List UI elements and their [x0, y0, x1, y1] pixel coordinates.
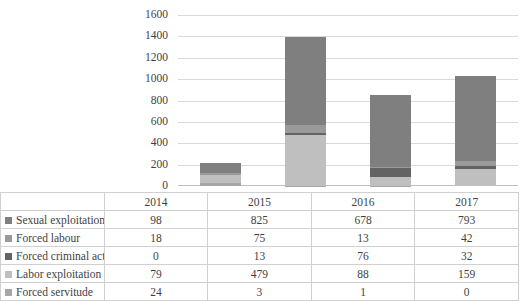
bar-segment	[285, 125, 326, 133]
table-corner-cell	[1, 193, 105, 211]
chart-with-data-table: 16001400120010008006004002000 2014201520…	[0, 0, 521, 301]
plot-area	[178, 15, 518, 186]
table-column-header-2016: 2016	[311, 193, 415, 211]
table-row-header: Forced labour	[1, 229, 105, 247]
table-cell: 42	[415, 229, 519, 247]
stacked-bars	[178, 15, 518, 186]
bar-segment	[370, 168, 411, 176]
table-cell: 24	[104, 283, 208, 301]
y-axis-tick-600: 600	[151, 116, 168, 128]
bar-group-2015	[285, 37, 326, 186]
legend-swatch-forced-criminal-activity	[5, 253, 12, 260]
y-axis-tick-labels: 16001400120010008006004002000	[0, 0, 176, 192]
bar-segment	[455, 76, 496, 161]
table-header-row: 2014201520162017	[1, 193, 519, 211]
table-row-header: Forced criminal activity of minors	[1, 247, 105, 265]
table-row-header: Labor exploitation	[1, 265, 105, 283]
y-axis-tick-1400: 1400	[145, 30, 168, 42]
series-label: Forced servitude	[16, 286, 93, 298]
table-cell: 0	[415, 283, 519, 301]
table-cell: 825	[208, 211, 312, 229]
table-cell: 1	[311, 283, 415, 301]
table-row: Forced labour18751342	[1, 229, 519, 247]
table-cell: 18	[104, 229, 208, 247]
legend-swatch-sexual-exploitation	[5, 217, 12, 224]
data-table-region: 2014201520162017Sexual exploitation98825…	[0, 192, 521, 301]
table-row-header: Forced servitude	[1, 283, 105, 301]
bar-segment	[200, 175, 241, 183]
y-axis-tick-1000: 1000	[145, 73, 168, 85]
bar-group-2014	[200, 163, 241, 186]
series-label: Forced criminal activity of minors	[16, 250, 104, 262]
bar-group-2017	[455, 76, 496, 186]
data-table: 2014201520162017Sexual exploitation98825…	[0, 192, 519, 301]
series-label: Labor exploitation	[16, 268, 101, 280]
bar-segment	[285, 135, 326, 186]
bar-group-2016	[370, 95, 411, 186]
chart-plot-region: 16001400120010008006004002000	[0, 0, 521, 192]
table-row: Forced criminal activity of minors013763…	[1, 247, 519, 265]
table-cell: 13	[311, 229, 415, 247]
legend-swatch-labor-exploitation	[5, 271, 12, 278]
bar-segment	[200, 163, 241, 173]
table-cell: 0	[104, 247, 208, 265]
table-cell: 32	[415, 247, 519, 265]
bar-segment	[200, 183, 241, 186]
legend-swatch-forced-labour	[5, 235, 12, 242]
table-row-header: Sexual exploitation	[1, 211, 105, 229]
table-cell: 79	[104, 265, 208, 283]
bar-segment	[370, 177, 411, 186]
table-cell: 159	[415, 265, 519, 283]
table-row: Forced servitude24310	[1, 283, 519, 301]
table-column-header-2014: 2014	[104, 193, 208, 211]
table-column-header-2015: 2015	[208, 193, 312, 211]
table-row: Sexual exploitation98825678793	[1, 211, 519, 229]
table-row: Labor exploitation7947988159	[1, 265, 519, 283]
table-cell: 678	[311, 211, 415, 229]
table-cell: 479	[208, 265, 312, 283]
y-axis-tick-1600: 1600	[145, 9, 168, 21]
series-label: Forced labour	[16, 232, 80, 244]
table-cell: 13	[208, 247, 312, 265]
table-cell: 75	[208, 229, 312, 247]
table-cell: 76	[311, 247, 415, 265]
bar-segment	[285, 37, 326, 125]
y-axis-tick-400: 400	[151, 137, 168, 149]
legend-swatch-forced-servitude	[5, 289, 12, 296]
table-column-header-2017: 2017	[415, 193, 519, 211]
bar-segment	[370, 95, 411, 167]
bar-segment	[455, 169, 496, 186]
table-cell: 3	[208, 283, 312, 301]
table-cell: 88	[311, 265, 415, 283]
y-axis-tick-200: 200	[151, 159, 168, 171]
y-axis-tick-800: 800	[151, 95, 168, 107]
y-axis-tick-0: 0	[162, 180, 168, 192]
series-label: Sexual exploitation	[16, 214, 104, 226]
y-axis-tick-1200: 1200	[145, 52, 168, 64]
table-cell: 98	[104, 211, 208, 229]
table-cell: 793	[415, 211, 519, 229]
